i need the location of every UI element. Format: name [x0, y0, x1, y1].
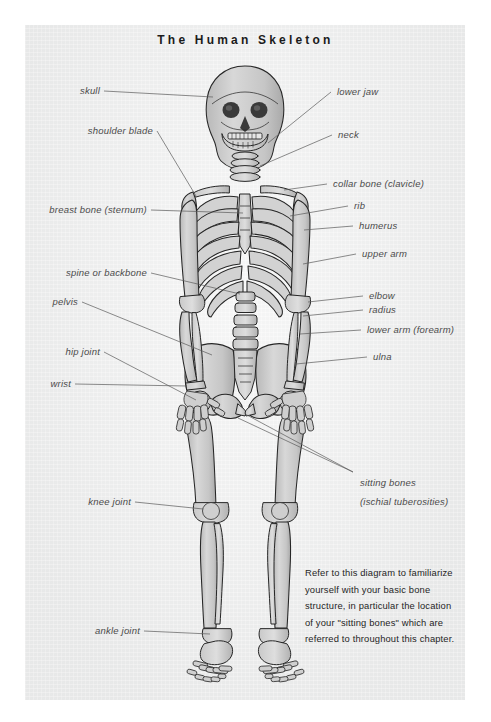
caption-line: of your "sitting bones" which are	[305, 615, 465, 632]
page-root: The Human Skeleton .bn{fill:url(#boneG);…	[0, 0, 491, 722]
label-spine: spine or backbone	[0, 267, 147, 278]
caption-paragraph: Refer to this diagram to familiarize you…	[305, 565, 465, 648]
label-wrist: wrist	[0, 378, 71, 389]
label-ulna: ulna	[373, 351, 392, 362]
caption-line: referred to throughout this chapter.	[305, 631, 465, 648]
label-elbow: elbow	[369, 290, 395, 301]
label-knee-joint: knee joint	[0, 496, 131, 507]
label-neck: neck	[338, 129, 359, 140]
label-ischial-tuberosities: (ischial tuberosities)	[360, 496, 448, 507]
label-ankle-joint: ankle joint	[0, 625, 140, 636]
caption-line: Refer to this diagram to familiarize	[305, 565, 465, 582]
caption-line: yourself with your basic bone	[305, 582, 465, 599]
caption-line: structure, in particular the location	[305, 598, 465, 615]
label-collar-bone: collar bone (clavicle)	[333, 178, 424, 189]
label-humerus: humerus	[359, 220, 397, 231]
label-hip-joint: hip joint	[0, 346, 100, 357]
label-lower-jaw: lower jaw	[337, 86, 378, 97]
label-lower-arm: lower arm (forearm)	[367, 324, 454, 335]
label-radius: radius	[369, 304, 396, 315]
label-sitting-bones: sitting bones	[360, 477, 416, 488]
label-skull: skull	[0, 85, 100, 96]
label-breast-bone: breast bone (sternum)	[0, 204, 147, 215]
label-upper-arm: upper arm	[362, 248, 407, 259]
label-rib: rib	[354, 200, 365, 211]
label-pelvis: pelvis	[0, 296, 78, 307]
label-shoulder-blade: shoulder blade	[0, 125, 153, 136]
